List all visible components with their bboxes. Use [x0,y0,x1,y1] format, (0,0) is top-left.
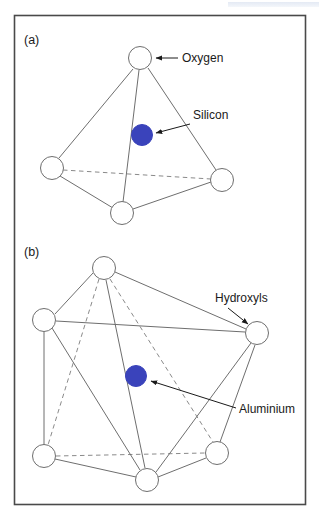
figure-border [15,16,306,505]
oxygen-front-bottom [111,202,134,225]
oxygen-apex [129,47,152,70]
hydroxyls-callout-label: Hydroxyls [215,291,268,305]
oxygen-right [211,169,234,192]
hydroxyl-right [246,322,269,345]
structure-diagram: (a) Oxygen [0,0,319,520]
hydroxyl-lower-right [206,442,229,465]
panel-a-label: (a) [24,33,39,47]
figure-root: (a) Oxygen [0,0,319,520]
hydroxyl-top [93,257,116,280]
aluminium-atom [126,366,147,387]
hydroxyl-upper-left [33,309,56,332]
hydroxyl-lower-left [33,445,56,468]
silicon-callout-label: Silicon [193,108,228,122]
hydroxyl-bottom [136,469,159,492]
silicon-atom [132,125,153,146]
oxygen-callout-label: Oxygen [182,51,223,65]
aluminium-callout-label: Aluminium [239,402,295,416]
panel-b-label: (b) [24,245,39,259]
oxygen-left [41,157,64,180]
